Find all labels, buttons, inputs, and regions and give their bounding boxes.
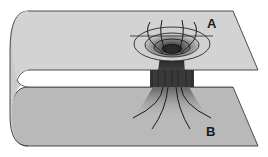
label-b: B [206, 124, 215, 139]
wormhole-diagram: A B [0, 0, 268, 157]
label-a: A [207, 16, 217, 31]
